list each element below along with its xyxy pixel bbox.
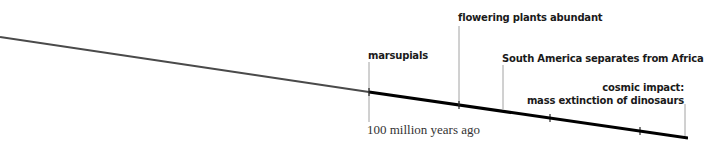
- event-label-flowering-plants: flowering plants abundant: [458, 12, 602, 24]
- event-label-south-america: South America separates from Africa: [502, 53, 704, 65]
- timeline-past-segment: [0, 37, 369, 92]
- event-label-marsupials: marsupials: [368, 50, 428, 62]
- event-label-cosmic-impact-line2: mass extinction of dinosaurs: [527, 95, 684, 107]
- axis-label: 100 million years ago: [367, 122, 480, 138]
- event-label-cosmic-impact-line1: cosmic impact:: [602, 82, 684, 94]
